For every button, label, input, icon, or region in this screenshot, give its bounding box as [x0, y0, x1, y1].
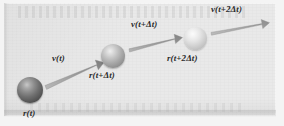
velocity-label-3: v(t+2Δt) — [211, 5, 242, 14]
figure-panel: r(t) r(t+Δt) r(t+2Δt) v(t) v(t+Δt) v(t+2… — [0, 0, 284, 126]
velocity-label-2: v(t+Δt) — [131, 20, 157, 29]
position-label-2: r(t+Δt) — [89, 71, 115, 80]
position-label-1: r(t) — [23, 109, 35, 118]
velocity-label-1: v(t) — [52, 54, 65, 63]
particle-sphere-3 — [184, 27, 207, 50]
position-label-3: r(t+2Δt) — [167, 54, 198, 63]
particle-sphere-1 — [17, 77, 43, 103]
particle-sphere-2 — [101, 44, 125, 68]
